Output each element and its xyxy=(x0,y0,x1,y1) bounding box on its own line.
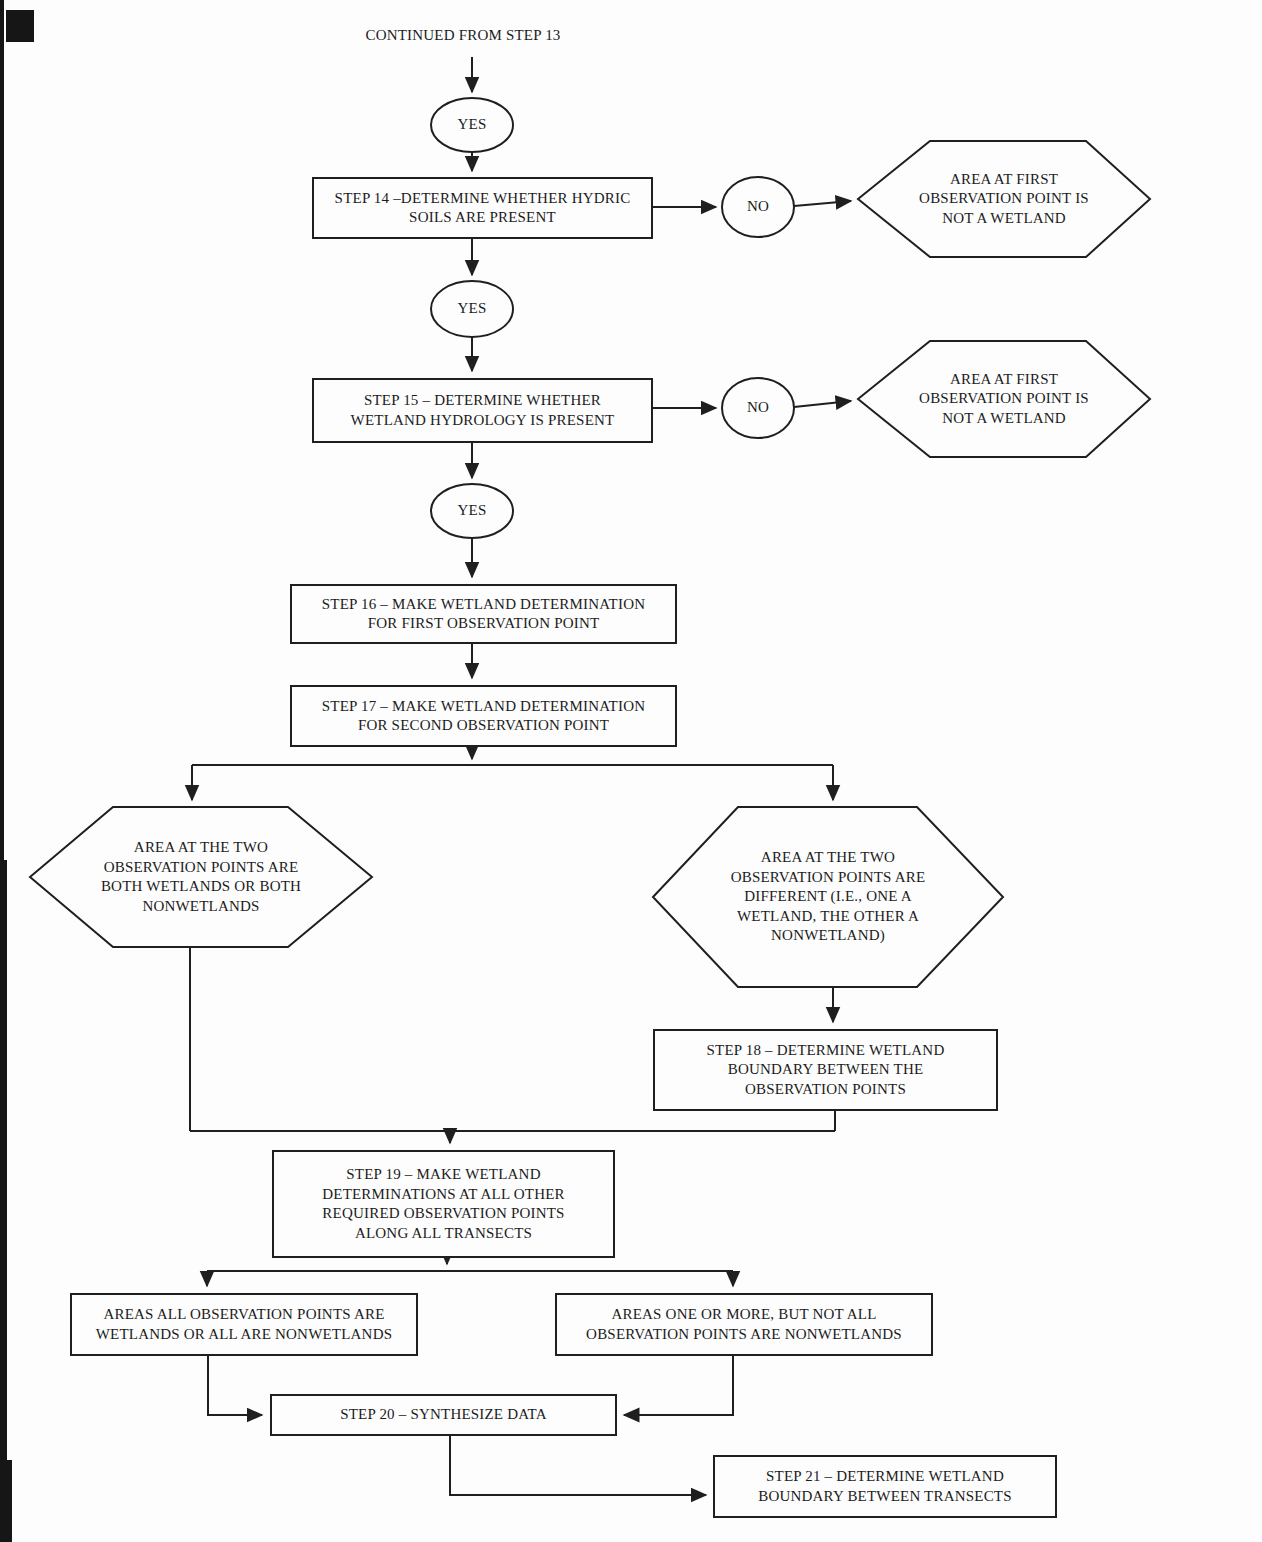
step19-line: ALONG ALL TRANSECTS xyxy=(355,1224,532,1244)
hexagon-both-same-label: AREA AT THE TWO OBSERVATION POINTS ARE B… xyxy=(76,835,326,919)
arrow-allsame-to-step20 xyxy=(208,1355,262,1415)
flowchart-page: CONTINUED FROM STEP 13 STEP 14 –DETERMIN… xyxy=(0,0,1262,1542)
hexagon-different-label: AREA AT THE TWO OBSERVATION POINTS ARE D… xyxy=(703,845,953,949)
step15-box: STEP 15 – DETERMINE WHETHER WETLAND HYDR… xyxy=(312,378,653,443)
step17-line: FOR SECOND OBSERVATION POINT xyxy=(358,716,609,736)
step19-line: STEP 19 – MAKE WETLAND xyxy=(346,1165,540,1185)
step14-line: STEP 14 –DETERMINE WHETHER HYDRIC xyxy=(335,189,631,209)
step16-box: STEP 16 – MAKE WETLAND DETERMINATION FOR… xyxy=(290,584,677,644)
step18-line: BOUNDARY BETWEEN THE xyxy=(728,1060,924,1080)
step21-line: STEP 21 – DETERMINE WETLAND xyxy=(766,1467,1004,1487)
step17-box: STEP 17 – MAKE WETLAND DETERMINATION FOR… xyxy=(290,685,677,747)
step18-box: STEP 18 – DETERMINE WETLAND BOUNDARY BET… xyxy=(653,1029,998,1111)
arrow-no1-to-hex1 xyxy=(794,201,851,206)
yes-label-3: YES xyxy=(432,500,512,522)
areas-all-same-line: AREAS ALL OBSERVATION POINTS ARE xyxy=(103,1305,384,1325)
step20-line: STEP 20 – SYNTHESIZE DATA xyxy=(340,1405,547,1425)
areas-not-all-line: AREAS ONE OR MORE, BUT NOT ALL xyxy=(611,1305,876,1325)
arrow-notall-to-step20 xyxy=(624,1355,733,1415)
areas-not-all-line: OBSERVATION POINTS ARE NONWETLANDS xyxy=(586,1325,902,1345)
step15-line: STEP 15 – DETERMINE WHETHER xyxy=(364,391,601,411)
step16-line: FOR FIRST OBSERVATION POINT xyxy=(368,614,600,634)
yes-label-1: YES xyxy=(432,114,512,136)
step19-line: DETERMINATIONS AT ALL OTHER xyxy=(322,1185,564,1205)
continued-from-label: CONTINUED FROM STEP 13 xyxy=(303,25,623,47)
step14-line: SOILS ARE PRESENT xyxy=(409,208,556,228)
step14-box: STEP 14 –DETERMINE WHETHER HYDRIC SOILS … xyxy=(312,177,653,239)
step15-line: WETLAND HYDROLOGY IS PRESENT xyxy=(351,411,615,431)
step20-box: STEP 20 – SYNTHESIZE DATA xyxy=(270,1394,617,1436)
hexagon-not-wetland-1-label: AREA AT FIRST OBSERVATION POINT IS NOT A… xyxy=(889,160,1119,238)
areas-all-same-box: AREAS ALL OBSERVATION POINTS ARE WETLAND… xyxy=(70,1293,418,1356)
no-label-1: NO xyxy=(718,196,798,218)
step18-line: OBSERVATION POINTS xyxy=(745,1080,906,1100)
arrow-step20-to-step21 xyxy=(450,1436,706,1495)
step16-line: STEP 16 – MAKE WETLAND DETERMINATION xyxy=(322,595,645,615)
yes-label-2: YES xyxy=(432,298,512,320)
step17-line: STEP 17 – MAKE WETLAND DETERMINATION xyxy=(322,697,645,717)
step21-line: BOUNDARY BETWEEN TRANSECTS xyxy=(758,1487,1012,1507)
no-label-2: NO xyxy=(718,397,798,419)
step21-box: STEP 21 – DETERMINE WETLAND BOUNDARY BET… xyxy=(713,1455,1057,1518)
step18-line: STEP 18 – DETERMINE WETLAND xyxy=(707,1041,945,1061)
hexagon-not-wetland-2-label: AREA AT FIRST OBSERVATION POINT IS NOT A… xyxy=(889,360,1119,438)
areas-not-all-box: AREAS ONE OR MORE, BUT NOT ALL OBSERVATI… xyxy=(555,1293,933,1356)
step19-line: REQUIRED OBSERVATION POINTS xyxy=(322,1204,564,1224)
arrow-no2-to-hex2 xyxy=(794,401,851,407)
areas-all-same-line: WETLANDS OR ALL ARE NONWETLANDS xyxy=(96,1325,392,1345)
step19-box: STEP 19 – MAKE WETLAND DETERMINATIONS AT… xyxy=(272,1150,615,1258)
